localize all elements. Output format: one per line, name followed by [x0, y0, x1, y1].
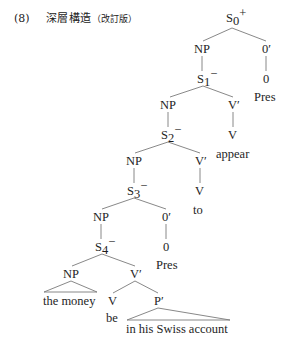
node-pres4: Pres — [156, 258, 178, 272]
node-np5: NP — [63, 267, 79, 281]
tree-nodes: S0+ NP 0′ 0 Pres S1− NP V′ V appear S2− … — [43, 6, 276, 336]
node-pbar: P′ — [154, 294, 164, 308]
syntax-tree: S0+ NP 0′ 0 Pres S1− NP V′ V appear S2− … — [0, 0, 292, 350]
node-np2: NP — [160, 98, 176, 112]
node-s4: S4− — [95, 235, 115, 257]
node-v5: V — [108, 294, 117, 308]
node-zero1: 0 — [263, 72, 269, 86]
node-the-money: the money — [43, 294, 96, 308]
node-be: be — [106, 311, 118, 325]
node-pres1: Pres — [254, 90, 276, 104]
node-appear: appear — [216, 147, 250, 161]
node-v2: V — [228, 128, 237, 142]
node-to: to — [193, 203, 203, 217]
node-pp-text: in his Swiss account — [126, 322, 228, 336]
node-s3: S3− — [127, 179, 147, 201]
node-v3: V — [195, 184, 204, 198]
node-zero-bar4: 0′ — [162, 210, 171, 224]
node-np3: NP — [126, 154, 142, 168]
node-zero4: 0 — [163, 240, 169, 254]
node-vbar5: V′ — [130, 267, 142, 281]
node-vbar3: V′ — [195, 154, 207, 168]
node-zero-bar1: 0′ — [262, 42, 271, 56]
node-vbar2: V′ — [228, 98, 240, 112]
node-s2: S2− — [161, 123, 181, 145]
node-s1: S1− — [197, 67, 217, 89]
node-s0: S0+ — [226, 6, 246, 28]
node-np4: NP — [93, 210, 109, 224]
node-np1: NP — [194, 42, 210, 56]
